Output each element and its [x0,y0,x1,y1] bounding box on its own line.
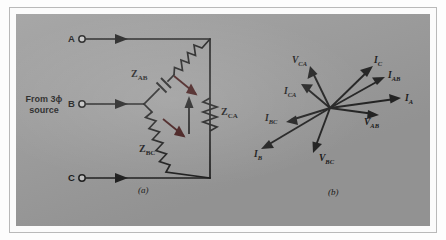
vab-subscript: AB [370,122,379,129]
source-label-line2: source [22,105,66,116]
phasor-ibc-label: IBC [265,114,277,125]
zab-lead-lower [144,89,159,104]
source-label: From 3ϕ source [22,94,66,117]
phasor-ica-label: ICA [284,87,296,98]
phasor-iab-label: IAB [388,71,400,82]
vector-ica [301,84,330,108]
ia-subscript: A [409,98,413,105]
terminal-c-label: C [68,173,75,183]
figure-page: A B C From 3ϕ source ZAB ZBC ZCA VCA IC … [0,0,446,240]
zab-resistor [174,39,210,75]
line-a-feeder [79,34,210,44]
zbc-lead-upper [144,104,152,112]
phasor-ia-label: IA [405,94,413,105]
zca-symbol: Z [221,106,228,117]
arrow-current-zca [185,96,194,134]
ibc-subscript: BC [269,118,278,125]
iab-subscript: AB [392,75,401,82]
vector-ibc [286,108,330,125]
arrow-current-zab [174,76,198,96]
ic-subscript: C [378,60,382,67]
phasor-vbc-label: VBC [319,154,334,165]
zbc-subscript: BC [146,149,156,157]
phasor-ic-label: IC [374,56,382,67]
zab-lead-mid [168,75,174,81]
zca-subscript: CA [228,112,238,120]
phasor-ib-label: IB [254,150,262,161]
impedance-zbc-label: ZBC [139,144,155,157]
zab-symbol: Z [131,68,138,79]
zbc-symbol: Z [139,143,146,154]
line-b-feeder [79,99,144,109]
vector-vbc [313,108,331,153]
arrow-current-zbc [163,119,186,138]
impedance-zab-label: ZAB [131,69,147,82]
terminal-b-label: B [68,99,75,109]
zab-subscript: AB [138,74,148,82]
caption-a: (a) [138,186,149,195]
vca-subscript: CA [298,60,307,67]
ib-subscript: B [258,154,262,161]
impedance-zca-label: ZCA [221,107,238,120]
ica-subscript: CA [288,91,297,98]
phasor-vca-label: VCA [292,56,307,67]
terminal-a-label: A [68,34,75,44]
source-label-line1: From 3ϕ [22,94,66,105]
phasor-vab-label: VAB [364,118,379,129]
caption-b: (b) [328,188,339,197]
vbc-subscript: BC [325,158,334,165]
figure-plate: A B C From 3ϕ source ZAB ZBC ZCA VCA IC … [16,14,430,226]
